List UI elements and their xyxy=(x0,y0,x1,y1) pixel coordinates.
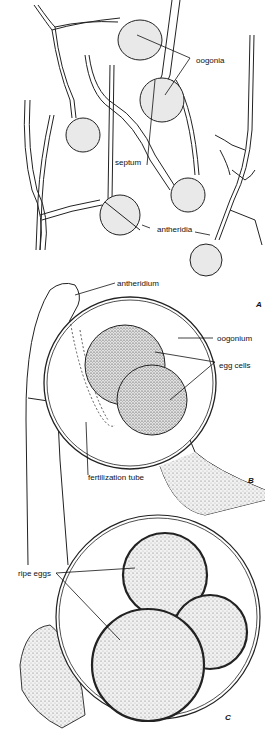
label-fertilization-tube: fertilization tube xyxy=(88,473,145,482)
oogonium-2 xyxy=(140,78,184,122)
panel-c: ripe eggs C xyxy=(18,515,260,728)
label-egg-cells: egg cells xyxy=(219,361,251,370)
oogonium-6 xyxy=(190,244,222,276)
figure-diagram: oogonia septum antheridia A antheridium … xyxy=(0,0,274,742)
label-ripe-eggs: ripe eggs xyxy=(18,569,51,578)
label-septum: septum xyxy=(115,158,142,167)
label-antheridia: antheridia xyxy=(157,225,193,234)
label-oogonium: oogonium xyxy=(217,334,252,343)
panel-label-c: C xyxy=(225,713,231,722)
panel-label-b: B xyxy=(248,476,254,485)
ripe-egg-3 xyxy=(92,609,204,721)
label-antheridium: antheridium xyxy=(117,279,159,288)
panel-a: oogonia septum antheridia A xyxy=(24,0,262,309)
oogonium-1 xyxy=(118,20,162,60)
label-oogonia: oogonia xyxy=(196,56,225,65)
panel-label-a: A xyxy=(255,300,262,309)
oogonium-3 xyxy=(66,118,100,152)
oogonium-4 xyxy=(171,178,205,212)
oogonium-5 xyxy=(100,195,140,235)
egg-cell-2 xyxy=(117,365,187,435)
